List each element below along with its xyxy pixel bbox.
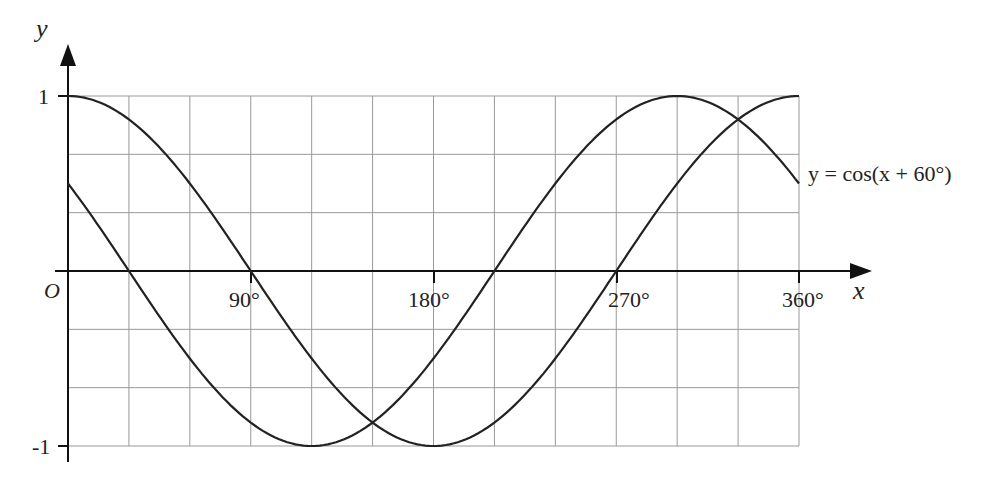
x-tick-label-90: 90° xyxy=(229,289,260,311)
y-tick-label-1: 1 xyxy=(38,86,49,108)
curve-label: y = cos(x + 60°) xyxy=(808,163,952,185)
origin-label: O xyxy=(44,280,60,302)
x-axis-label: x xyxy=(853,278,865,304)
y-tick-label-neg1: -1 xyxy=(32,436,50,458)
axes xyxy=(55,44,872,462)
x-tick-label-270: 270° xyxy=(608,289,650,311)
x-tick-label-360: 360° xyxy=(782,289,824,311)
y-axis-label: y xyxy=(36,16,48,42)
chart-canvas xyxy=(0,0,999,481)
x-tick-label-180: 180° xyxy=(408,289,450,311)
y-axis-arrow-icon xyxy=(60,44,76,66)
